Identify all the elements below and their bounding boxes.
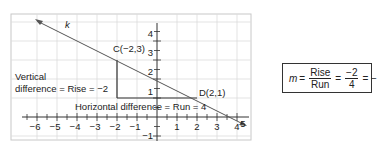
vertical-diff-label-2: difference = Rise = −2 xyxy=(15,83,108,94)
equals-tail: = − xyxy=(362,73,376,84)
point-c-label: C(−2,3) xyxy=(113,43,145,54)
slope-var: m xyxy=(289,73,297,84)
numerator: −2 xyxy=(345,67,358,79)
svg-text:−3: −3 xyxy=(90,121,101,132)
svg-text:−1: −1 xyxy=(142,130,153,141)
equals-2: = xyxy=(335,73,341,84)
svg-text:−1: −1 xyxy=(130,121,141,132)
svg-text:−5: −5 xyxy=(50,121,61,132)
svg-text:4: 4 xyxy=(148,28,153,39)
svg-text:1: 1 xyxy=(174,121,179,132)
svg-text:−4: −4 xyxy=(70,121,81,132)
value-fraction: −2 4 xyxy=(345,67,358,90)
vertical-diff-label-1: Vertical xyxy=(15,71,46,82)
svg-text:−2: −2 xyxy=(110,121,121,132)
svg-text:3: 3 xyxy=(214,121,219,132)
denominator: 4 xyxy=(349,79,355,90)
rise-text: Rise xyxy=(309,67,331,79)
point-d-label: D(2,1) xyxy=(199,87,225,98)
equals-1: = xyxy=(299,73,305,84)
svg-text:2: 2 xyxy=(194,121,199,132)
horizontal-diff-label: Horizontal difference = Run = 4 xyxy=(75,101,206,112)
rise-run-fraction: Rise Run xyxy=(309,67,331,90)
svg-text:4: 4 xyxy=(234,121,239,132)
slope-formula: m = Rise Run = −2 4 = − xyxy=(282,63,372,93)
run-text: Run xyxy=(311,79,329,90)
svg-text:2: 2 xyxy=(148,66,153,77)
svg-text:1: 1 xyxy=(148,86,153,97)
svg-text:−6: −6 xyxy=(30,121,41,132)
svg-text:3: 3 xyxy=(148,47,153,58)
x-tick-5: 5 xyxy=(240,118,245,129)
